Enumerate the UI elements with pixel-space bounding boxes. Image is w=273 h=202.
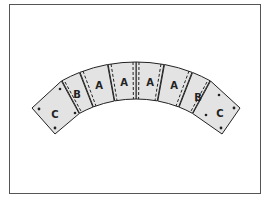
arc-diagram: C B A A A A B C xyxy=(0,0,273,202)
label-a-right-inner: A xyxy=(146,77,154,88)
label-b-right: B xyxy=(194,92,202,103)
label-c-left: C xyxy=(51,109,58,120)
label-a-right-outer: A xyxy=(170,80,178,91)
label-b-left: B xyxy=(73,89,81,100)
label-a-left-inner: A xyxy=(120,77,128,88)
label-a-left-outer: A xyxy=(95,80,103,91)
label-c-right: C xyxy=(216,108,223,119)
